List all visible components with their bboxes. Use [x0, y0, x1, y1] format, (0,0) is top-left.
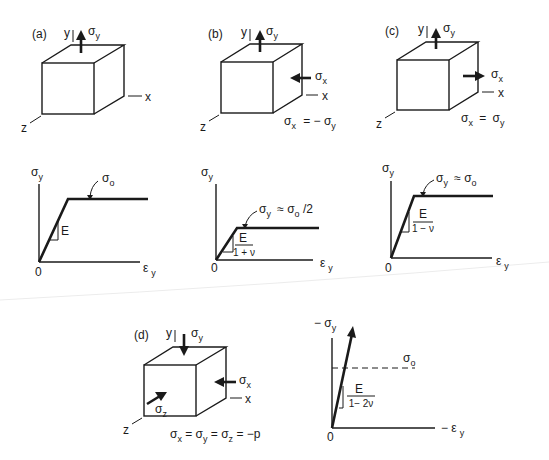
panel-a-x-axis-label: x — [145, 90, 151, 104]
graph-a-y-axis-label: σy — [31, 165, 43, 182]
cube-top-face — [397, 42, 478, 60]
graph-b-slope-denominator: 1 + ν — [233, 247, 255, 258]
panel-b-graph: σy E 1 + ν 0 εy σy ≈ σo /2 — [201, 165, 333, 275]
panel-a-sigma-y: σy — [88, 24, 100, 41]
panel-a-graph: σy E 0 εy σo — [31, 165, 156, 279]
panel-c-y-axis-label: y — [418, 22, 424, 36]
panel-c-sigma-y: σy — [443, 21, 455, 38]
panel-b-label: (b) — [208, 27, 223, 41]
panel-b-condition: σx = − σy — [284, 114, 336, 132]
cube-top-face — [221, 44, 302, 62]
graph-b-plateau-label: σy ≈ σo /2 — [259, 202, 313, 220]
graph-d-reference-label: σo — [403, 351, 415, 368]
cube-top-face — [42, 45, 124, 63]
panel-d-sigma-y: σy — [191, 326, 203, 343]
arrow-right-icon — [475, 71, 485, 81]
stress-strain-curve — [391, 196, 493, 258]
panel-d-label: (d) — [134, 328, 149, 342]
graph-c-x-axis-label: εy — [496, 254, 509, 271]
panel-c-condition: σx = σy — [461, 111, 505, 129]
graph-d-y-axis-label: − σy — [314, 316, 337, 333]
panel-b-sigma-x: σx — [315, 69, 327, 86]
graph-a-plateau-label: σo — [102, 171, 114, 188]
graph-b-y-axis-label: σy — [201, 165, 213, 182]
graph-b-origin: 0 — [211, 261, 218, 275]
stress-strain-diagram: (a) y x z σy (b) y x z σy σx σx = − σ — [0, 0, 549, 460]
panel-b-z-axis-label: z — [200, 120, 206, 134]
arrow-left-icon — [214, 377, 224, 387]
cube-front-face — [42, 63, 94, 114]
panel-d-sigma-x: σx — [239, 373, 251, 390]
z-axis-stub — [30, 116, 41, 123]
graph-d-slope-denominator: 1− 2ν — [349, 398, 374, 409]
graph-b-x-axis-label: εy — [320, 256, 333, 273]
panel-d-condition: σx = σy = σz = −p — [170, 427, 261, 445]
graph-d-x-axis-label: − εy — [441, 421, 465, 438]
graph-c-slope-numerator: E — [419, 207, 427, 221]
cube-side-face — [94, 45, 124, 114]
arrow-down-icon — [179, 346, 189, 356]
panel-d-x-axis-label: x — [245, 392, 251, 406]
panel-c-x-axis-label: x — [498, 86, 504, 100]
graph-b-slope-numerator: E — [239, 231, 247, 245]
panel-d-z-axis-label: z — [123, 423, 129, 437]
paper-fold — [0, 262, 549, 300]
panel-a-label: (a) — [32, 27, 47, 41]
plateau-leader — [423, 180, 434, 194]
panel-d-cube: (d) y x z σy σx σz σx = σy = σz = −p — [123, 326, 261, 445]
arrow-up-icon — [255, 30, 265, 40]
plateau-leader — [245, 211, 257, 226]
panel-c-z-axis-label: z — [376, 117, 382, 131]
arrow-up-icon — [347, 326, 356, 338]
graph-d-slope-numerator: E — [355, 382, 363, 396]
graph-c-plateau-label: σy ≈ σo — [436, 171, 477, 189]
plateau-leader — [90, 181, 98, 197]
z-axis-stub — [385, 112, 395, 118]
graph-a-x-axis-label: εy — [143, 261, 156, 278]
panel-c-cube: (c) y x z σy σx σx = σy — [376, 21, 505, 131]
graph-a-slope-label: E — [61, 224, 69, 238]
panel-b-y-axis-label: y — [241, 25, 247, 39]
panel-d-graph: − σy σo E 1− 2ν 0 − εy — [314, 316, 465, 444]
arrow-left-icon — [290, 73, 300, 83]
panel-d-y-axis-label: y — [166, 326, 172, 340]
z-axis-stub — [132, 418, 142, 424]
panel-b-sigma-y: σy — [266, 24, 278, 41]
panel-a-cube: (a) y x z σy — [21, 24, 151, 135]
panel-c-label: (c) — [385, 24, 399, 38]
graph-c-origin: 0 — [385, 261, 392, 275]
cube-front-face — [144, 365, 196, 416]
graph-c-slope-denominator: 1 − ν — [412, 223, 434, 234]
panel-a-z-axis-label: z — [21, 121, 27, 135]
panel-c-graph: σy E 1 − ν 0 εy σy ≈ σo — [382, 161, 509, 275]
cube-front-face — [397, 60, 449, 110]
graph-c-y-axis-label: σy — [382, 161, 394, 178]
stress-strain-curve — [216, 228, 319, 260]
arrow-up-icon — [431, 28, 441, 38]
panel-c-sigma-x: σx — [491, 67, 503, 84]
stress-strain-curve — [39, 199, 148, 262]
panel-b-cube: (b) y x z σy σx σx = − σy — [200, 24, 336, 134]
cube-front-face — [221, 62, 273, 113]
graph-d-origin: 0 — [327, 430, 334, 444]
z-axis-stub — [209, 115, 219, 121]
panel-b-x-axis-label: x — [322, 89, 328, 103]
arrow-up-icon — [76, 30, 86, 40]
panel-a-y-axis-label: y — [64, 26, 70, 40]
graph-a-origin: 0 — [35, 265, 42, 279]
stress-strain-line — [332, 334, 352, 428]
